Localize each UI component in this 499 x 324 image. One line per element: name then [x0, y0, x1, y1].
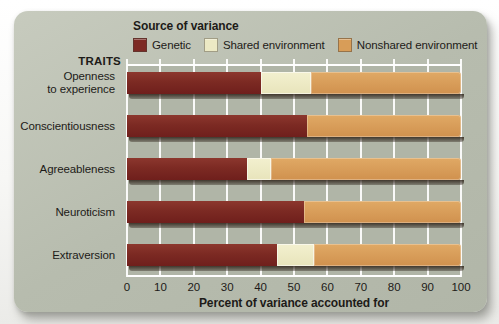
x-tick-label: 30	[221, 281, 234, 293]
x-axis-title: Percent of variance accounted for	[127, 296, 461, 310]
legend-swatch-shared-environment	[204, 38, 218, 52]
x-tick-label: 80	[388, 281, 401, 293]
bar-segment-nonshared-environment	[307, 115, 461, 137]
bar-segment-nonshared-environment	[304, 201, 461, 223]
x-tick-label: 100	[451, 281, 470, 293]
legend-swatch-genetic	[133, 38, 147, 52]
bar-segment-shared-environment	[261, 72, 311, 94]
bar-segment-genetic	[127, 244, 277, 266]
legend: Source of variance GeneticShared environ…	[133, 19, 477, 52]
bar-shadow	[129, 94, 464, 99]
x-tick-label: 70	[354, 281, 367, 293]
figure-card: Source of variance GeneticShared environ…	[14, 11, 487, 312]
bar-segment-shared-environment	[247, 158, 270, 180]
bar-row	[127, 72, 461, 99]
bar-track	[127, 201, 461, 223]
bar-segment-nonshared-environment	[314, 244, 461, 266]
bar-track	[127, 115, 461, 137]
legend-items: GeneticShared environmentNonshared envir…	[133, 38, 477, 52]
trait-labels: Opennessto experienceConscientiousnessAg…	[14, 64, 121, 277]
x-tick-label: 60	[321, 281, 334, 293]
x-tick-label: 40	[254, 281, 267, 293]
plot-area	[127, 64, 461, 277]
bar-segment-shared-environment	[277, 244, 314, 266]
x-tick-label: 90	[421, 281, 434, 293]
bar-track	[127, 244, 461, 266]
bar-track	[127, 72, 461, 94]
bar-row	[127, 158, 461, 185]
bar-segment-genetic	[127, 201, 304, 223]
bar-shadow	[129, 223, 464, 228]
legend-item-label: Shared environment	[223, 39, 325, 51]
bar-segment-nonshared-environment	[271, 158, 461, 180]
bar-segment-nonshared-environment	[311, 72, 461, 94]
x-axis-ticks: 0102030405060708090100	[127, 281, 461, 294]
bar-segment-genetic	[127, 115, 307, 137]
bar-shadow	[129, 137, 464, 142]
trait-label: Opennessto experience	[14, 70, 115, 96]
legend-title: Source of variance	[133, 19, 477, 33]
legend-item: Shared environment	[204, 38, 325, 52]
x-tick-label: 50	[288, 281, 301, 293]
bar-row	[127, 201, 461, 228]
trait-label: Extraversion	[14, 249, 115, 262]
bar-row	[127, 115, 461, 142]
trait-label: Agreeableness	[14, 163, 115, 176]
bar-shadow	[129, 266, 464, 271]
bar-row	[127, 244, 461, 271]
bar-shadow	[129, 180, 464, 185]
trait-label: Neuroticism	[14, 206, 115, 219]
bar-segment-genetic	[127, 158, 247, 180]
trait-label: Conscientiousness	[14, 120, 115, 133]
x-tick-label: 10	[154, 281, 167, 293]
legend-item: Nonshared environment	[338, 38, 478, 52]
legend-item-label: Genetic	[152, 39, 191, 51]
bar-track	[127, 158, 461, 180]
legend-item-label: Nonshared environment	[357, 39, 478, 51]
x-tick-label: 20	[187, 281, 200, 293]
legend-item: Genetic	[133, 38, 191, 52]
bar-segment-genetic	[127, 72, 261, 94]
x-tick-label: 0	[124, 281, 130, 293]
legend-swatch-nonshared-environment	[338, 38, 352, 52]
